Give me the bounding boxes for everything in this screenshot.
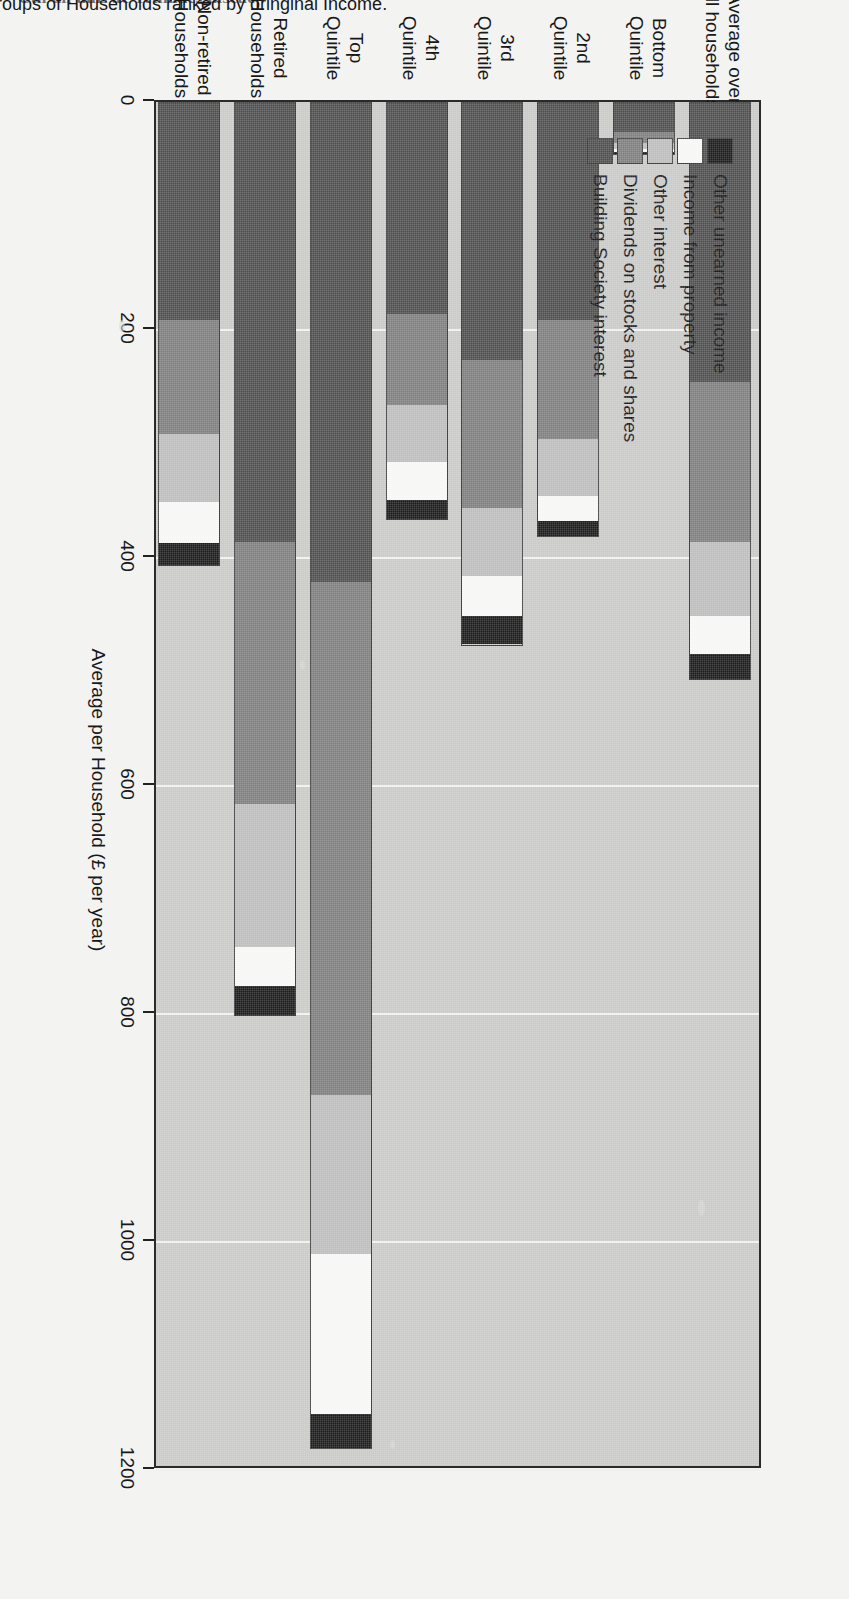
category-label: 2ndQuintile bbox=[549, 15, 595, 79]
category-axis-title: Quintile groups of Households ranked by … bbox=[0, 0, 387, 14]
value-axis-tick bbox=[143, 327, 154, 329]
value-axis-tick-label: 600 bbox=[116, 768, 138, 800]
table-row bbox=[309, 102, 371, 1449]
value-axis-tick-label: 1200 bbox=[116, 1446, 138, 1488]
bar-segment bbox=[234, 541, 294, 803]
category-label: 4thQuintile bbox=[397, 15, 443, 79]
bar-segment bbox=[462, 615, 522, 644]
value-axis-tick bbox=[143, 1467, 154, 1469]
category-label-line: Average over bbox=[724, 0, 747, 108]
bar-segment bbox=[386, 462, 446, 500]
rotated-figure-wrapper: Other unearned incomeIncome from propert… bbox=[0, 0, 849, 1599]
table-row bbox=[233, 102, 295, 1016]
bar-segment bbox=[690, 541, 750, 615]
bar-segment bbox=[310, 103, 370, 582]
bar-segment bbox=[234, 804, 294, 947]
legend-swatch-icon bbox=[677, 138, 703, 164]
bar-segment bbox=[158, 433, 218, 501]
category-label: Non-retiredHouseholds bbox=[169, 0, 215, 98]
value-axis-tick-label: 800 bbox=[116, 996, 138, 1028]
paper-speck bbox=[119, 320, 125, 332]
bar-segment bbox=[538, 439, 598, 496]
category-label-line: Quintile bbox=[549, 15, 572, 79]
category-label-line: Top bbox=[344, 15, 367, 79]
category-label-line: Bottom bbox=[648, 15, 671, 79]
bar-segment bbox=[538, 496, 598, 521]
bar-segment bbox=[310, 1094, 370, 1254]
category-label-line: all households bbox=[701, 0, 724, 108]
bar-segment bbox=[310, 1413, 370, 1447]
bar-segment bbox=[690, 653, 750, 678]
value-axis-tick-label: 400 bbox=[116, 540, 138, 572]
category-label-line: Households bbox=[245, 0, 268, 98]
bar-segment bbox=[386, 405, 446, 462]
category-label: Average overall households bbox=[701, 0, 747, 108]
value-axis-tick-label: 1000 bbox=[116, 1218, 138, 1260]
bar-segment bbox=[462, 359, 522, 507]
value-axis-tick bbox=[143, 555, 154, 557]
bar-segment bbox=[234, 986, 294, 1015]
category-label: RetiredHouseholds bbox=[245, 0, 291, 98]
value-axis-tick-label: 0 bbox=[116, 94, 138, 105]
bar-segment bbox=[310, 1254, 370, 1414]
value-axis-tick bbox=[143, 1239, 154, 1241]
paper-speck bbox=[698, 1200, 705, 1216]
bar-segment bbox=[538, 521, 598, 536]
category-label-line: Quintile bbox=[625, 15, 648, 79]
bar-segment bbox=[310, 581, 370, 1094]
value-axis-tick bbox=[143, 99, 154, 101]
bar-segment bbox=[386, 499, 446, 518]
bar-segment bbox=[462, 507, 522, 575]
value-axis-title: Average per Household (£ per year) bbox=[87, 648, 109, 951]
chart-figure: Other unearned incomeIncome from propert… bbox=[25, 20, 825, 1580]
legend-item: Income from property bbox=[677, 138, 703, 442]
category-label-line: 4th bbox=[420, 15, 443, 79]
legend-label: Other interest bbox=[649, 174, 671, 289]
bar-segment bbox=[386, 103, 446, 314]
table-row bbox=[157, 102, 219, 566]
bar-segment bbox=[158, 501, 218, 542]
category-label-line: Quintile bbox=[397, 15, 420, 79]
category-label: 3rdQuintile bbox=[473, 15, 519, 79]
paper-speck bbox=[300, 660, 305, 670]
gridline bbox=[156, 1241, 759, 1243]
legend-item: Other interest bbox=[647, 138, 673, 442]
legend-label: Dividends on stocks and shares bbox=[619, 174, 641, 442]
category-label: BottomQuintile bbox=[625, 15, 671, 79]
paper-speck bbox=[390, 1440, 395, 1449]
legend-label: Other unearned income bbox=[709, 174, 731, 374]
bar-segment bbox=[234, 946, 294, 986]
bar-segment bbox=[690, 615, 750, 653]
bar-segment bbox=[158, 103, 218, 320]
value-axis-tick bbox=[143, 783, 154, 785]
legend-item: Dividends on stocks and shares bbox=[617, 138, 643, 442]
legend-swatch-icon bbox=[587, 138, 613, 164]
legend-label: Income from property bbox=[679, 174, 701, 355]
chart-legend: Other unearned incomeIncome from propert… bbox=[587, 138, 733, 442]
bar-segment bbox=[158, 319, 218, 433]
category-label-line: Non-retired bbox=[192, 0, 215, 98]
category-label-line: 3rd bbox=[496, 15, 519, 79]
category-label-line: 2nd bbox=[572, 15, 595, 79]
bar-segment bbox=[462, 103, 522, 360]
bar-segment bbox=[462, 576, 522, 616]
bar-segment bbox=[234, 103, 294, 542]
legend-swatch-icon bbox=[617, 138, 643, 164]
legend-swatch-icon bbox=[647, 138, 673, 164]
bar-segment bbox=[386, 313, 446, 404]
legend-item: Building Society interest bbox=[587, 138, 613, 442]
value-axis-tick bbox=[143, 1011, 154, 1013]
legend-label: Building Society interest bbox=[589, 174, 611, 377]
gridline bbox=[156, 1469, 759, 1471]
category-label-line: Quintile bbox=[321, 15, 344, 79]
category-label: TopQuintile bbox=[321, 15, 367, 79]
category-label-line: Households bbox=[169, 0, 192, 98]
bar-segment bbox=[614, 103, 674, 132]
category-label-line: Retired bbox=[268, 0, 291, 98]
table-row bbox=[385, 102, 447, 520]
table-row bbox=[461, 102, 523, 646]
legend-swatch-icon bbox=[707, 138, 733, 164]
category-label-line: Quintile bbox=[473, 15, 496, 79]
bar-segment bbox=[158, 543, 218, 565]
legend-item: Other unearned income bbox=[707, 138, 733, 442]
